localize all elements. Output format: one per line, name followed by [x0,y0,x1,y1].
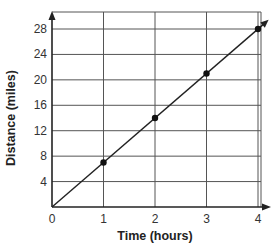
x-tick-label: 1 [100,212,107,226]
y-tick-label: 12 [34,124,48,138]
series-line [52,23,265,207]
x-tick-label: 4 [255,212,262,226]
y-tick-labels: 481216202428 [34,22,48,189]
y-tick-label: 16 [34,98,48,112]
x-tick-label: 2 [152,212,159,226]
grid-lines [52,12,261,207]
data-point [203,70,209,76]
y-axis-title: Distance (miles) [4,70,18,166]
data-point [152,115,158,121]
distance-time-chart: 01234 481216202428 Time (hours) Distance… [0,0,273,250]
y-tick-label: 28 [34,22,48,36]
x-tick-label: 0 [49,212,56,226]
data-series [52,20,269,207]
data-point [100,159,106,165]
data-point [255,26,261,32]
y-tick-label: 24 [34,47,48,61]
y-tick-label: 20 [34,73,48,87]
y-tick-label: 4 [40,175,47,189]
y-tick-label: 8 [40,149,47,163]
x-tick-labels: 01234 [49,212,262,226]
x-axis-arrow-icon [262,204,271,211]
x-tick-label: 3 [203,212,210,226]
x-axis-title: Time (hours) [117,229,192,243]
